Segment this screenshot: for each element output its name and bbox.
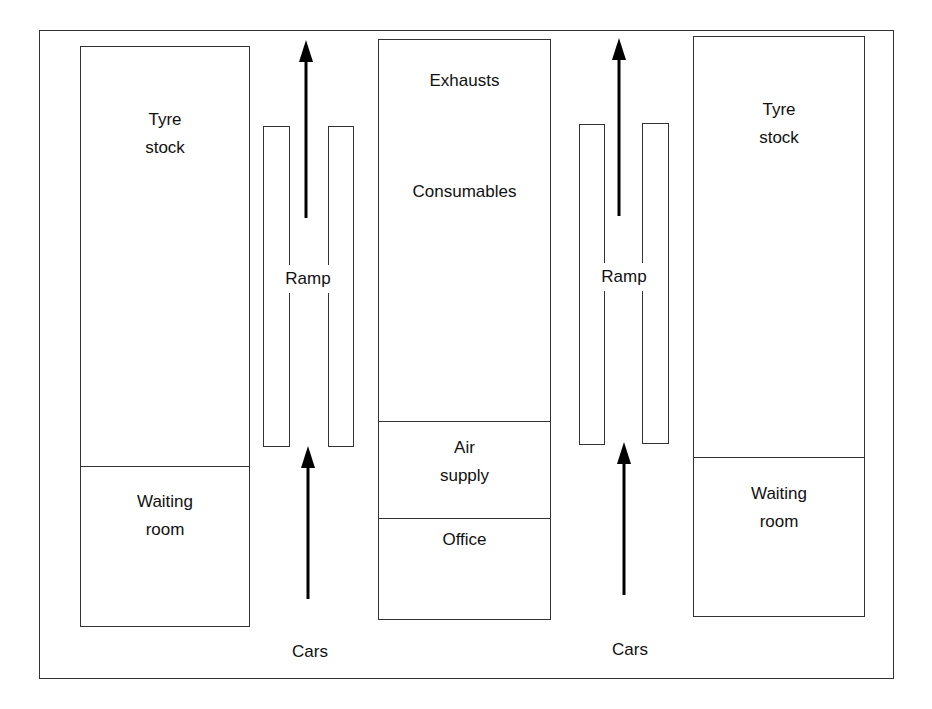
left-cars-label: Cars: [270, 638, 350, 666]
right-building-divider: [694, 457, 864, 458]
left-exit-arrow-icon: [296, 38, 316, 220]
left-entry-arrow-icon: [298, 444, 318, 600]
right-ramp-label: Ramp: [586, 263, 662, 291]
consumables-label: Consumables: [378, 178, 551, 206]
left-waiting-room-label: Waiting room: [80, 488, 250, 544]
left-tyre-stock-label: Tyre stock: [80, 106, 250, 162]
center-divider-1: [379, 421, 550, 422]
right-entry-arrow-icon: [614, 440, 634, 596]
left-ramp-label: Ramp: [270, 265, 346, 293]
center-divider-2: [379, 518, 550, 519]
right-cars-label: Cars: [590, 636, 670, 664]
air-supply-label: Air supply: [378, 434, 551, 490]
office-label: Office: [378, 526, 551, 554]
exhausts-label: Exhausts: [378, 67, 551, 95]
left-building-divider: [81, 466, 249, 467]
right-waiting-room-label: Waiting room: [693, 480, 865, 536]
right-tyre-stock-label: Tyre stock: [693, 96, 865, 152]
right-exit-arrow-icon: [609, 36, 629, 218]
